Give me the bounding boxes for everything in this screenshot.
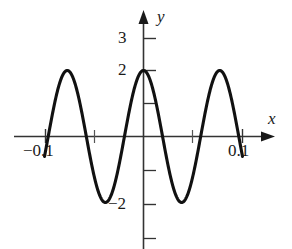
plot-canvas xyxy=(0,0,292,249)
y-axis-label: y xyxy=(157,8,165,25)
y-tick-label-3: 3 xyxy=(118,29,127,46)
x-tick-label-pos-0-1: 0.1 xyxy=(228,142,249,159)
y-axis-arrowhead xyxy=(139,10,149,24)
x-axis-arrowhead xyxy=(261,132,275,142)
y-axis-ticks xyxy=(143,39,156,239)
x-axis-label: x xyxy=(268,110,276,127)
x-tick-label-neg-0-1: −0.1 xyxy=(23,142,54,159)
y-tick-label-2: 2 xyxy=(118,61,127,78)
y-axis-group xyxy=(139,10,149,249)
function-graph-figure: y x 3 2 −2 −0.1 0.1 xyxy=(0,0,292,249)
x-axis-group xyxy=(14,132,275,142)
y-tick-label-neg-2: −2 xyxy=(108,195,126,212)
